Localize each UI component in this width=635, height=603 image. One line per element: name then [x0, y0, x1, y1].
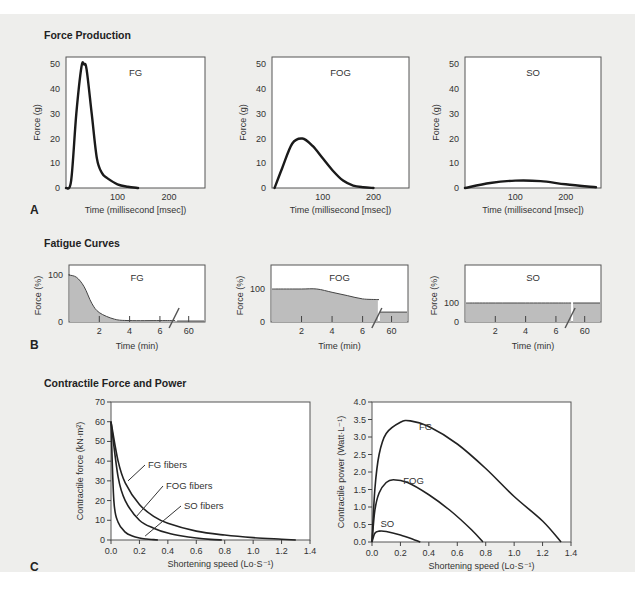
svg-text:200: 200 [366, 192, 381, 202]
svg-text:4: 4 [330, 326, 335, 336]
svg-text:2: 2 [97, 326, 102, 336]
force-velocity-chart: 0102030405060700.00.20.40.60.81.01.21.4S… [75, 397, 316, 569]
svg-text:100: 100 [250, 284, 265, 294]
svg-text:Force (g): Force (g) [431, 104, 441, 141]
svg-text:60: 60 [95, 417, 105, 427]
svg-text:Contractile power (Watt·L⁻¹): Contractile power (Watt·L⁻¹) [336, 416, 346, 529]
svg-text:SO: SO [526, 67, 540, 78]
svg-text:1.0: 1.0 [247, 546, 260, 556]
fatigue-chart-fg: 246600100Time (min)Force (%)FG [33, 265, 205, 351]
figure-canvas: 01020304050100200Time (millisecond [msec… [0, 0, 635, 603]
svg-text:0.0: 0.0 [353, 537, 366, 547]
svg-text:1.2: 1.2 [536, 548, 549, 558]
svg-text:200: 200 [161, 192, 176, 202]
svg-text:FOG: FOG [330, 67, 351, 78]
svg-text:50: 50 [256, 59, 266, 69]
svg-text:100: 100 [315, 192, 330, 202]
svg-text:0: 0 [261, 183, 266, 193]
svg-text:0: 0 [454, 317, 459, 327]
svg-text:FG: FG [419, 421, 432, 432]
svg-text:Shortening speed (Lo·S⁻¹): Shortening speed (Lo·S⁻¹) [167, 559, 273, 569]
svg-text:0.0: 0.0 [105, 546, 118, 556]
svg-text:100: 100 [508, 192, 523, 202]
svg-text:FOG fibers: FOG fibers [166, 480, 213, 491]
svg-text:1.4: 1.4 [304, 546, 317, 556]
svg-text:0.6: 0.6 [190, 546, 203, 556]
svg-text:30: 30 [256, 109, 266, 119]
force-chart-fog: 01020304050100200Time (millisecond [msec… [238, 57, 409, 215]
svg-text:FOG: FOG [403, 475, 424, 486]
power-velocity-chart: 0.00.51.01.52.02.53.03.54.00.00.20.40.60… [336, 397, 577, 571]
svg-text:60: 60 [580, 326, 590, 336]
svg-text:Force (%): Force (%) [429, 276, 439, 316]
svg-text:Time (min): Time (min) [512, 341, 555, 351]
svg-text:60: 60 [184, 326, 194, 336]
svg-text:SO fibers: SO fibers [184, 500, 224, 511]
svg-text:FG fibers: FG fibers [148, 459, 187, 470]
svg-text:0.2: 0.2 [394, 548, 407, 558]
svg-text:3.0: 3.0 [353, 432, 366, 442]
svg-text:1.5: 1.5 [353, 485, 366, 495]
svg-text:20: 20 [50, 134, 60, 144]
svg-text:0: 0 [55, 183, 60, 193]
svg-text:2.0: 2.0 [353, 467, 366, 477]
svg-text:SO: SO [381, 518, 395, 529]
svg-text:1.0: 1.0 [508, 548, 521, 558]
svg-text:100: 100 [110, 192, 125, 202]
svg-text:50: 50 [95, 436, 105, 446]
svg-text:10: 10 [449, 158, 459, 168]
svg-text:0: 0 [260, 317, 265, 327]
force-chart-fg: 01020304050100200Time (millisecond [msec… [32, 57, 205, 215]
svg-text:100: 100 [48, 270, 63, 280]
svg-text:0.8: 0.8 [218, 546, 231, 556]
svg-text:1.2: 1.2 [275, 546, 288, 556]
svg-text:Force (%): Force (%) [235, 276, 245, 316]
svg-text:4: 4 [127, 326, 132, 336]
svg-text:20: 20 [256, 134, 266, 144]
svg-text:Force (g): Force (g) [32, 104, 42, 141]
svg-text:0.4: 0.4 [162, 546, 175, 556]
svg-text:10: 10 [256, 158, 266, 168]
fatigue-chart-so: 246600100Time (min)Force (%)SO [429, 265, 601, 351]
svg-text:2.5: 2.5 [353, 450, 366, 460]
svg-text:30: 30 [449, 109, 459, 119]
svg-text:6: 6 [553, 326, 558, 336]
svg-text:20: 20 [95, 496, 105, 506]
svg-text:40: 40 [256, 84, 266, 94]
svg-text:200: 200 [558, 192, 573, 202]
svg-text:10: 10 [95, 515, 105, 525]
svg-text:30: 30 [95, 476, 105, 486]
svg-text:Shortening speed (Lo·S⁻¹): Shortening speed (Lo·S⁻¹) [428, 561, 534, 571]
svg-text:40: 40 [95, 456, 105, 466]
svg-text:0.0: 0.0 [366, 548, 379, 558]
svg-text:50: 50 [50, 59, 60, 69]
svg-text:4.0: 4.0 [353, 397, 366, 407]
svg-text:0: 0 [58, 317, 63, 327]
svg-text:1.4: 1.4 [565, 548, 578, 558]
svg-text:Time (millisecond [msec]): Time (millisecond [msec]) [85, 205, 187, 215]
svg-text:Time (min): Time (min) [116, 341, 159, 351]
svg-text:100: 100 [444, 298, 459, 308]
svg-text:60: 60 [387, 326, 397, 336]
force-chart-so: 01020304050100200Time (millisecond [msec… [431, 57, 601, 215]
svg-text:SO: SO [526, 272, 540, 283]
svg-text:1.0: 1.0 [353, 502, 366, 512]
svg-text:40: 40 [449, 84, 459, 94]
svg-text:6: 6 [157, 326, 162, 336]
svg-text:0.6: 0.6 [451, 548, 464, 558]
svg-text:0.5: 0.5 [353, 520, 366, 530]
svg-text:FG: FG [130, 272, 143, 283]
svg-text:6: 6 [360, 326, 365, 336]
svg-text:2: 2 [299, 326, 304, 336]
svg-text:3.5: 3.5 [353, 415, 366, 425]
svg-text:0: 0 [454, 183, 459, 193]
svg-text:Time (millisecond [msec]): Time (millisecond [msec]) [482, 205, 584, 215]
fatigue-chart-fog: 246600100Time (min)Force (%)FOG [235, 265, 408, 351]
svg-text:Force (g): Force (g) [238, 104, 248, 141]
svg-text:FOG: FOG [329, 272, 350, 283]
svg-text:10: 10 [50, 158, 60, 168]
svg-text:0.8: 0.8 [479, 548, 492, 558]
svg-text:0: 0 [100, 535, 105, 545]
svg-text:40: 40 [50, 84, 60, 94]
svg-text:50: 50 [449, 59, 459, 69]
